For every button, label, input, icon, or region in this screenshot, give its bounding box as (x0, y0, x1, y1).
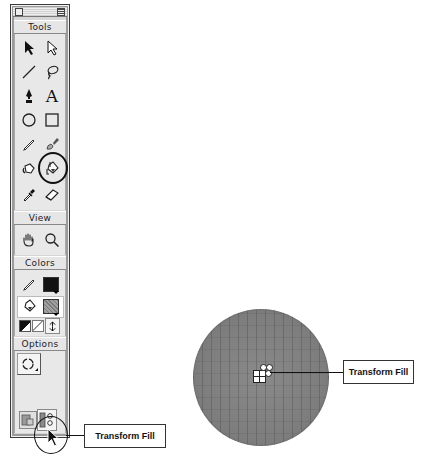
toolbox-panel: Tools A (10, 4, 70, 438)
view-section-header: View (14, 211, 66, 225)
oval-tool[interactable] (19, 110, 39, 130)
text-tool[interactable]: A (42, 86, 62, 106)
text-icon: A (46, 88, 58, 105)
line-icon (21, 64, 37, 80)
fill-color-label (19, 296, 39, 316)
paint-bucket-highlight-circle (38, 152, 68, 184)
gap-size-icon (18, 354, 40, 374)
brush-tool[interactable] (42, 134, 62, 154)
pen-icon (21, 88, 37, 104)
options-section-header: Options (14, 337, 66, 351)
lock-fill-option-button[interactable] (17, 353, 41, 375)
ink-bottle-tool[interactable] (19, 158, 39, 178)
arrow-tool[interactable] (19, 38, 39, 58)
lasso-tool[interactable] (42, 62, 62, 82)
mouse-cursor-icon (47, 428, 61, 448)
canvas-transform-fill-callout: Transform Fill (343, 360, 414, 384)
arrow-icon (21, 40, 37, 56)
subselect-arrow-icon (44, 40, 60, 56)
eraser-icon (44, 186, 60, 202)
zoom-tool[interactable] (42, 230, 62, 250)
colors-section-header: Colors (14, 256, 66, 270)
canvas-callout-leader-line (270, 372, 343, 373)
tools-section-header: Tools (14, 20, 66, 34)
view-section (14, 225, 66, 255)
eyedropper-tool[interactable] (19, 184, 39, 204)
rectangle-icon (44, 112, 60, 128)
fill-color-swatch[interactable] (43, 299, 59, 314)
swap-colors-button[interactable] (45, 318, 60, 334)
brush-icon (44, 136, 60, 152)
toolbox-titlebar[interactable] (13, 7, 67, 17)
hand-icon (21, 232, 37, 248)
collapse-box-icon[interactable] (57, 8, 65, 16)
pencil-icon (21, 136, 37, 152)
subselect-tool[interactable] (42, 38, 62, 58)
lock-fill-icon (20, 412, 36, 428)
lock-fill-button[interactable] (19, 411, 37, 429)
paint-bucket-icon (21, 298, 37, 314)
stroke-color-label (19, 274, 39, 294)
transform-handle[interactable] (259, 376, 266, 383)
ink-bottle-icon (21, 160, 37, 176)
stroke-color-swatch[interactable] (43, 277, 59, 292)
close-box-icon[interactable] (15, 8, 23, 16)
rectangle-tool[interactable] (42, 110, 62, 130)
eraser-tool[interactable] (42, 184, 62, 204)
pen-tool[interactable] (19, 86, 39, 106)
magnifier-icon (44, 232, 60, 248)
swap-arrows-icon (48, 321, 57, 332)
no-color-button[interactable] (32, 320, 44, 332)
pencil-tool[interactable] (19, 134, 39, 154)
line-tool[interactable] (19, 62, 39, 82)
default-colors-button[interactable] (19, 320, 31, 332)
oval-icon (21, 112, 37, 128)
colors-section (14, 270, 66, 336)
toolbox-transform-fill-callout: Transform Fill (84, 424, 166, 448)
eyedropper-icon (21, 186, 37, 202)
hand-tool[interactable] (19, 230, 39, 250)
lasso-icon (44, 64, 60, 80)
pencil-icon (21, 276, 37, 292)
tools-section: A (14, 34, 66, 210)
callout-leader-line (66, 435, 84, 436)
